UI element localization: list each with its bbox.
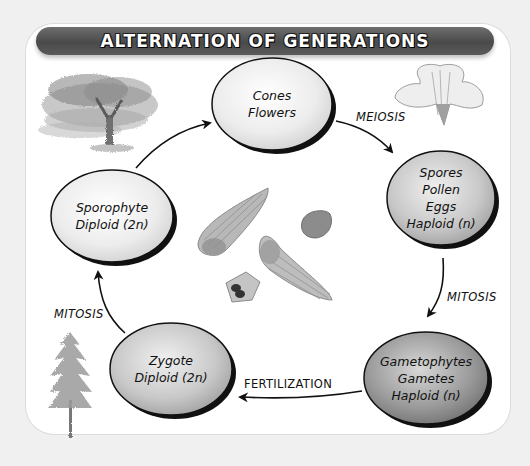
node-text-line: Cones bbox=[253, 87, 292, 104]
conifer-tree-illustration bbox=[48, 332, 92, 438]
process-label-mitosis-left: MITOSIS bbox=[54, 307, 103, 321]
node-label-gametophytes: Gametophytes Gametes Haploid (n) bbox=[364, 336, 488, 420]
node-text-line: Zygote bbox=[149, 352, 193, 369]
arrow-gametophytes-to-zygote bbox=[240, 391, 362, 398]
node-label-cones-flowers: Cones Flowers bbox=[212, 62, 332, 146]
arrow-spores-to-gametophytes bbox=[428, 258, 443, 316]
arrow-zygote-to-sporophyte bbox=[98, 272, 125, 333]
node-text-line: Eggs bbox=[426, 198, 456, 215]
node-text-line: Flowers bbox=[248, 104, 296, 121]
node-label-zygote: Zygote Diploid (2n) bbox=[110, 327, 232, 411]
node-text-line: Gametophytes bbox=[380, 353, 472, 370]
node-text-line: Haploid (n) bbox=[391, 387, 460, 404]
arrow-sporophyte-to-cones bbox=[136, 123, 210, 168]
node-label-sporophyte: Sporophyte Diploid (2n) bbox=[51, 174, 173, 258]
node-text-line: Diploid (2n) bbox=[134, 369, 207, 386]
process-label-fertilization: FERTILIZATION bbox=[244, 377, 332, 391]
node-text-line: Haploid (n) bbox=[406, 215, 475, 232]
process-label-mitosis-right: MITOSIS bbox=[447, 290, 496, 304]
deciduous-tree-illustration bbox=[38, 74, 158, 152]
flower-illustration bbox=[395, 64, 483, 126]
node-text-line: Gametes bbox=[398, 370, 454, 387]
node-text-line: Sporophyte bbox=[76, 199, 148, 216]
node-text-line: Spores bbox=[420, 164, 463, 181]
process-label-meiosis: MEIOSIS bbox=[356, 110, 406, 124]
node-label-spores: Spores Pollen Eggs Haploid (n) bbox=[387, 155, 495, 241]
seeds-illustration bbox=[198, 188, 332, 302]
node-text-line: Diploid (2n) bbox=[75, 216, 148, 233]
node-text-line: Pollen bbox=[422, 181, 460, 198]
arrow-cones-to-spores bbox=[336, 121, 392, 152]
